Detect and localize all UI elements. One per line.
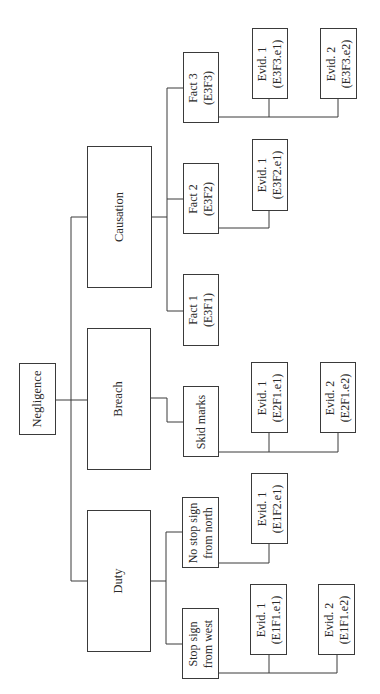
node-label: Fact 3 (E3F3): [186, 71, 216, 105]
node-evidence-e2f1-e2: Evid. 2 (E2F1.e2): [320, 362, 356, 433]
node-label: Fact 1 (E3F1): [186, 293, 216, 327]
node-evidence-e2f1-e1: Evid. 1 (E2F1.e1): [251, 362, 288, 433]
evidence-code: (E3F2.e1): [270, 151, 285, 199]
node-label: Evid. 2 (E3F3.e2): [324, 39, 354, 87]
node-label: Stop sign from west: [186, 619, 216, 667]
node-fact-e3f2: Fact 2 (E3F2): [183, 163, 219, 234]
node-duty: Duty: [87, 510, 151, 652]
evidence-title: Evid. 1: [255, 484, 270, 532]
fact-code: (E3F2): [201, 182, 216, 216]
evidence-code: (E3F3.e1): [270, 39, 285, 87]
node-label: Breach: [111, 381, 127, 416]
node-evidence-e3f3-e1: Evid. 1 (E3F3.e1): [252, 28, 288, 99]
node-label: Evid. 1 (E3F2.e1): [255, 151, 285, 199]
node-fact-e1f1: Stop sign from west: [182, 608, 219, 679]
node-label: No stop sign from north: [186, 502, 216, 563]
node-label: Evid. 1 (E3F3.e1): [255, 39, 285, 87]
evidence-title: Evid. 2: [323, 373, 338, 421]
evidence-title: Evid. 1: [255, 151, 270, 199]
node-causation: Causation: [87, 146, 152, 288]
node-label: Evid. 1 (E1F1.e1): [254, 595, 284, 643]
node-fact-e3f3: Fact 3 (E3F3): [183, 52, 219, 123]
evidence-code: (E1F1.e2): [337, 595, 352, 643]
evidence-title: Evid. 1: [255, 39, 270, 87]
evidence-title: Evid. 1: [254, 595, 269, 643]
evidence-code: (E2F1.e2): [338, 373, 353, 421]
evidence-title: Evid. 2: [322, 595, 337, 643]
node-label: Causation: [112, 192, 128, 242]
node-label: Negligence: [30, 371, 46, 428]
node-label: Evid. 2 (E2F1.e2): [323, 373, 353, 421]
evidence-title: Evid. 1: [255, 373, 270, 421]
fact-title-line2: from north: [201, 502, 216, 563]
evidence-code: (E1F1.e1): [269, 595, 284, 643]
node-fact-e3f1: Fact 1 (E3F1): [183, 274, 219, 346]
node-evidence-e3f2-e1: Evid. 1 (E3F2.e1): [252, 139, 288, 211]
node-fact-e2f1: Skid marks: [183, 386, 219, 457]
evidence-code: (E2F1.e1): [270, 373, 285, 421]
fact-title: Stop sign: [186, 619, 201, 667]
node-label: Evid. 1 (E2F1.e1): [255, 373, 285, 421]
node-evidence-e1f1-e1: Evid. 1 (E1F1.e1): [250, 584, 287, 655]
node-evidence-e3f3-e2: Evid. 2 (E3F3.e2): [320, 28, 357, 99]
node-fact-e1f2: No stop sign from north: [182, 497, 219, 568]
node-label: Evid. 2 (E1F1.e2): [322, 595, 352, 643]
node-evidence-e1f2-e1: Evid. 1 (E1F2.e1): [251, 473, 288, 544]
node-label: Duty: [111, 569, 127, 594]
node-label: Evid. 1 (E1F2.e1): [255, 484, 285, 532]
evidence-code: (E1F2.e1): [270, 484, 285, 532]
node-evidence-e1f1-e2: Evid. 2 (E1F1.e2): [318, 584, 355, 655]
node-label: Skid marks: [194, 394, 209, 448]
evidence-code: (E3F3.e2): [339, 39, 354, 87]
fact-title: Skid marks: [194, 394, 209, 448]
fact-title: Fact 2: [186, 182, 201, 216]
fact-title: Fact 3: [186, 71, 201, 105]
fact-title-line2: from west: [201, 619, 216, 667]
negligence-tree-diagram: Negligence Causation Breach Duty Fact 3 …: [0, 0, 380, 694]
node-label: Fact 2 (E3F2): [186, 182, 216, 216]
fact-code: (E3F1): [201, 293, 216, 327]
fact-title: No stop sign: [186, 502, 201, 563]
node-negligence: Negligence: [19, 363, 56, 435]
fact-code: (E3F3): [201, 71, 216, 105]
evidence-title: Evid. 2: [324, 39, 339, 87]
fact-title: Fact 1: [186, 293, 201, 327]
node-breach: Breach: [87, 328, 151, 470]
